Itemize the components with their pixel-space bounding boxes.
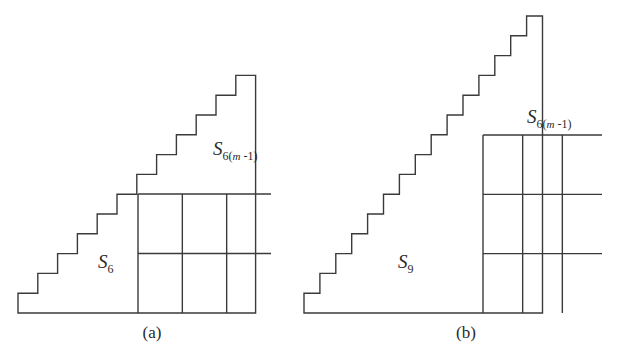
panel-a-upper-label: S6(m -1) xyxy=(213,138,257,163)
panel-b: S9 S6(m -1) (b) xyxy=(304,16,602,342)
figure-container: S6 S6(m -1) (a) S9 S6(m -1) (b) xyxy=(0,0,624,359)
panel-b-caption: (b) xyxy=(456,323,476,342)
panel-b-staircase-outline xyxy=(304,16,543,313)
panel-a-lower-label: S6 xyxy=(98,251,114,276)
staircase-figure-svg: S6 S6(m -1) (a) S9 S6(m -1) (b) xyxy=(0,0,624,359)
panel-b-upper-label: S6(m -1) xyxy=(527,106,571,131)
panel-a-caption: (a) xyxy=(143,323,162,342)
panel-a: S6 S6(m -1) (a) xyxy=(18,75,271,342)
panel-b-lower-label: S9 xyxy=(398,251,414,276)
panel-a-grid xyxy=(138,194,271,313)
